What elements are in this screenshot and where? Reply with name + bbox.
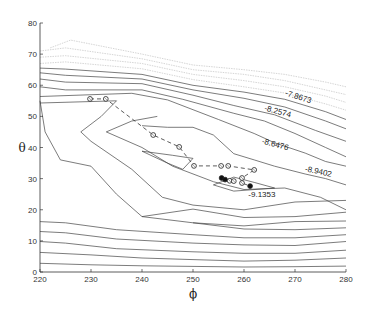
y-tick-label: 40	[28, 144, 37, 153]
x-tick-label: 240	[135, 275, 149, 284]
filled-marker	[248, 184, 253, 189]
contour-line	[106, 116, 346, 209]
contour-label: -7.8673	[284, 88, 313, 105]
filled-marker	[223, 177, 228, 182]
x-tick-label: 260	[237, 275, 251, 284]
contour-line	[142, 217, 346, 226]
contour-line	[40, 263, 346, 267]
contour-line	[40, 232, 346, 246]
contour-label: -9.1353	[248, 190, 276, 199]
contour-labels: -7.8673-8.2574-8.6476-8.9402-9.1353	[248, 88, 333, 199]
y-tick-label: 20	[28, 206, 37, 215]
y-tick-label: 80	[28, 19, 37, 28]
x-tick-label: 280	[339, 275, 353, 284]
y-tick-label: 70	[28, 50, 37, 59]
x-tick-label: 230	[84, 275, 98, 284]
contour-label: -8.6476	[261, 137, 290, 153]
contour-lines	[40, 40, 346, 267]
contour-line	[40, 79, 346, 141]
x-axis-label: ϕ	[189, 287, 197, 301]
path-markers	[88, 97, 257, 189]
x-tick-label: 250	[186, 275, 200, 284]
contour-line	[40, 101, 346, 218]
y-tick-label: 30	[28, 175, 37, 184]
x-tick-label: 270	[288, 275, 302, 284]
contour-label: -8.2574	[263, 104, 292, 120]
contour-line	[40, 101, 346, 210]
y-tick-label: 50	[28, 112, 37, 121]
contour-line	[142, 151, 193, 169]
y-tick-label: 0	[33, 268, 38, 277]
contour-line	[40, 252, 346, 261]
x-ticks: 220230240250260270280	[33, 269, 353, 284]
contour-line	[40, 48, 346, 95]
y-tick-label: 60	[28, 81, 37, 90]
contour-plot: -7.8673-8.2574-8.6476-8.9402-9.1353 2202…	[0, 0, 367, 314]
contour-line	[50, 40, 346, 87]
y-axis-label: θ	[18, 141, 25, 155]
y-tick-label: 10	[28, 237, 37, 246]
contour-line	[40, 62, 346, 110]
y-ticks: 01020304050607080	[28, 19, 43, 277]
